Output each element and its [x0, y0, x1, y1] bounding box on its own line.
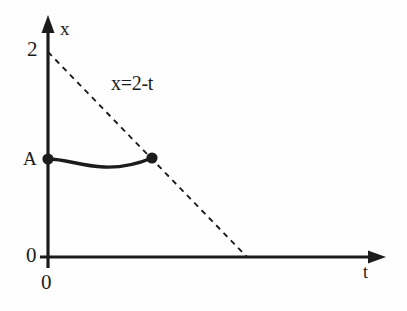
- x-axis-arrowhead: [42, 15, 55, 33]
- end-point-marker: [146, 152, 157, 163]
- y-tick-label-zero: 0: [26, 245, 37, 266]
- solution-curve: [48, 158, 152, 167]
- x-axis-label: x: [60, 19, 70, 38]
- start-point-marker: [42, 153, 53, 164]
- y-tick-label-a: A: [23, 149, 37, 168]
- plot-canvas: [0, 0, 407, 311]
- x-tick-label-zero: 0: [41, 272, 52, 293]
- plot-figure: x t 2 A 0 0 x=2-t: [0, 0, 407, 311]
- line-equation-label: x=2-t: [111, 73, 153, 93]
- t-axis-arrowhead: [368, 251, 386, 264]
- t-axis-label: t: [363, 263, 368, 281]
- y-tick-label-2: 2: [27, 39, 38, 60]
